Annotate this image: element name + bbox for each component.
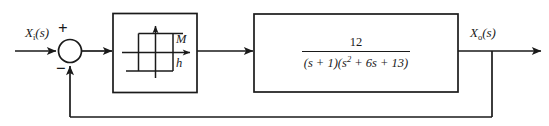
output-signal-base: X <box>470 25 478 40</box>
input-signal-label: Xi(s) <box>25 26 49 39</box>
summing-junction-plus-sign: + <box>58 20 68 37</box>
block-diagram: Xi(s) + − M h 12 (s + 1)(s2 + 6s + 13) X… <box>0 0 549 126</box>
output-signal-argument: (s) <box>482 25 496 40</box>
output-signal-label: Xo(s) <box>470 26 496 39</box>
diagram-canvas <box>0 0 549 126</box>
input-signal-base: X <box>25 25 33 40</box>
nonlinearity-hysteresis-width-label: h <box>176 57 182 70</box>
output-signal-subscript: o <box>478 32 482 42</box>
input-signal-argument: (s) <box>35 25 49 40</box>
summing-junction-minus-sign: − <box>56 60 66 77</box>
input-signal-subscript: i <box>33 32 35 42</box>
nonlinearity-output-level-label: M <box>176 33 186 46</box>
transfer-function-block-box <box>254 14 458 92</box>
